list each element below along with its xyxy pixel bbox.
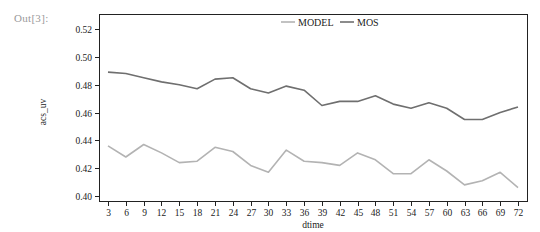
plot-frame — [100, 15, 528, 202]
x-tick-label: 12 — [157, 208, 167, 218]
x-tick-label: 21 — [211, 208, 221, 218]
x-tick-label: 66 — [478, 208, 488, 218]
x-tick-label: 48 — [371, 208, 381, 218]
y-tick-label: 0.48 — [75, 81, 92, 91]
x-tick-label: 69 — [496, 208, 506, 218]
x-tick-label: 27 — [247, 208, 257, 218]
x-tick-label: 18 — [193, 208, 203, 218]
x-tick-label: 72 — [514, 208, 524, 218]
x-tick-label: 39 — [318, 208, 328, 218]
x-tick-label: 24 — [229, 208, 239, 218]
series-lines — [108, 72, 518, 188]
x-tick-label: 15 — [175, 208, 185, 218]
y-tick-label: 0.42 — [75, 164, 92, 174]
x-tick-label: 57 — [425, 208, 435, 218]
y-tick-label: 0.40 — [75, 192, 92, 202]
x-tick-label: 9 — [142, 208, 147, 218]
x-tick-label: 45 — [354, 208, 364, 218]
y-axis: 0.400.420.440.460.480.500.52 — [75, 25, 99, 202]
y-tick-label: 0.46 — [75, 109, 92, 119]
series-line-mos — [108, 72, 518, 119]
x-tick-label: 51 — [389, 208, 399, 218]
line-chart: 0.400.420.440.460.480.500.52 36912151821… — [0, 0, 540, 232]
series-line-model — [108, 145, 518, 188]
x-tick-label: 42 — [336, 208, 346, 218]
x-tick-label: 33 — [282, 208, 292, 218]
x-axis: 3691215182124273033363942454851545760636… — [106, 202, 523, 219]
x-tick-label: 54 — [407, 208, 417, 218]
x-tick-label: 63 — [461, 208, 471, 218]
x-tick-label: 60 — [443, 208, 453, 218]
legend-label-mos: MOS — [357, 17, 379, 28]
x-tick-label: 30 — [264, 208, 274, 218]
x-tick-label: 6 — [124, 208, 129, 218]
y-tick-label: 0.44 — [75, 136, 92, 146]
x-axis-title: dtime — [302, 220, 324, 230]
y-axis-title: acs_uv — [38, 99, 48, 126]
x-tick-label: 36 — [300, 208, 310, 218]
y-tick-label: 0.50 — [75, 53, 92, 63]
legend-label-model: MODEL — [298, 17, 334, 28]
x-tick-label: 3 — [106, 208, 111, 218]
legend: MODELMOS — [281, 17, 379, 28]
y-tick-label: 0.52 — [75, 25, 92, 35]
